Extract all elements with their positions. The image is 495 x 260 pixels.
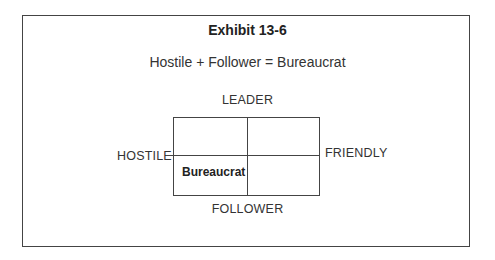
axis-label-follower: FOLLOWER bbox=[0, 202, 495, 216]
exhibit-title: Exhibit 13-6 bbox=[0, 22, 495, 38]
exhibit-equation: Hostile + Follower = Bureaucrat bbox=[0, 54, 495, 70]
axis-label-leader: LEADER bbox=[0, 93, 495, 107]
quadrant-bottom-left-label: Bureaucrat bbox=[182, 165, 245, 179]
hostile-axis-tick bbox=[166, 155, 173, 156]
axis-label-hostile: HOSTILE bbox=[117, 149, 172, 163]
horizontal-divider bbox=[174, 155, 319, 156]
axis-label-friendly: FRIENDLY bbox=[325, 146, 388, 160]
quadrant-matrix: Bureaucrat bbox=[173, 117, 320, 196]
vertical-divider bbox=[247, 118, 248, 195]
